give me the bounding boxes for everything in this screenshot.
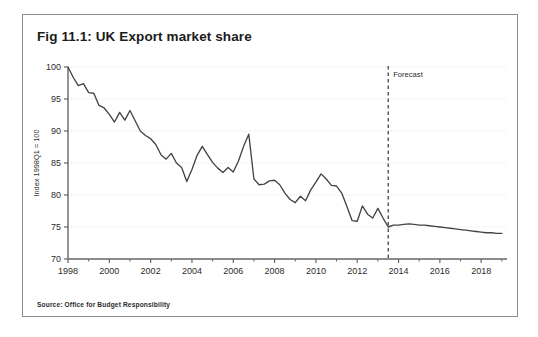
x-tick-label-2016: 2016 <box>430 266 450 276</box>
y-tick-label-75: 75 <box>51 222 61 232</box>
x-tick-label-2002: 2002 <box>141 266 161 276</box>
y-tick-label-100: 100 <box>46 62 61 72</box>
x-tick-label-1998: 1998 <box>58 266 78 276</box>
gridlines <box>68 67 507 227</box>
data-series-line <box>68 67 502 233</box>
x-tick-label-2000: 2000 <box>99 266 119 276</box>
y-tick-label-80: 80 <box>51 190 61 200</box>
x-tick-label-2014: 2014 <box>389 266 409 276</box>
y-axis-title: Index 1998Q1 = 100 <box>32 129 41 196</box>
x-tick-label-2006: 2006 <box>223 266 243 276</box>
x-axis-ticks: 1998200020022004200620082010201220142016… <box>58 259 502 276</box>
y-tick-label-95: 95 <box>51 94 61 104</box>
x-tick-label-2004: 2004 <box>182 266 202 276</box>
figure-frame: Fig 11.1: UK Export market share 7075808… <box>22 14 518 317</box>
y-tick-label-70: 70 <box>51 254 61 264</box>
y-axis-ticks: 707580859095100 <box>46 62 68 264</box>
y-tick-label-90: 90 <box>51 126 61 136</box>
x-tick-label-2008: 2008 <box>265 266 285 276</box>
chart-plot-area: 707580859095100 199820002002200420062008… <box>23 15 519 318</box>
x-tick-label-2010: 2010 <box>306 266 326 276</box>
x-tick-label-2018: 2018 <box>471 266 491 276</box>
forecast-label: Forecast <box>393 70 423 79</box>
y-tick-label-85: 85 <box>51 158 61 168</box>
x-tick-label-2012: 2012 <box>347 266 367 276</box>
source-note: Source: Office for Budget Responsibility <box>37 301 170 308</box>
